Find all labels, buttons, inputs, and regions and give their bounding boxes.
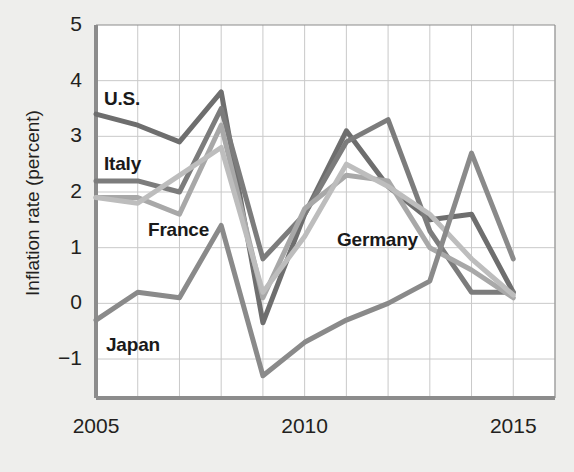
series-label-us: U.S. xyxy=(104,88,140,110)
series-label-france: France xyxy=(148,219,209,241)
x-tick-label: 2015 xyxy=(473,414,553,438)
y-tick-label: 5 xyxy=(48,12,82,36)
y-tick-label: 3 xyxy=(48,123,82,147)
x-tick-label: 2005 xyxy=(56,414,136,438)
x-tick-label: 2010 xyxy=(265,414,345,438)
y-tick-label: 0 xyxy=(48,290,82,314)
y-axis-title: Inflation rate (percent) xyxy=(22,103,44,303)
y-tick-label: −1 xyxy=(48,346,82,370)
series-label-germany: Germany xyxy=(337,229,418,251)
y-tick-label: 2 xyxy=(48,179,82,203)
y-tick-label: 4 xyxy=(48,68,82,92)
chart-page: Inflation rate (percent) −1012345 200520… xyxy=(0,0,574,472)
gridlines xyxy=(96,25,555,398)
series-label-italy: Italy xyxy=(104,153,141,175)
line-chart xyxy=(0,0,574,472)
series-label-japan: Japan xyxy=(106,334,160,356)
y-tick-label: 1 xyxy=(48,235,82,259)
